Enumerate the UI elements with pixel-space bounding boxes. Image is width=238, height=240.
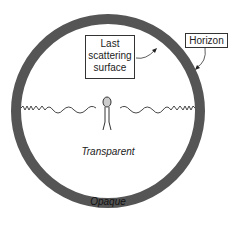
last-scattering-arrow	[136, 50, 155, 58]
horizon-label: Horizon	[185, 33, 228, 48]
label-line: scattering	[86, 50, 134, 62]
observer-figure	[103, 97, 111, 130]
opaque-label: Opaque	[88, 196, 128, 208]
photon-wave-left	[21, 106, 96, 113]
photon-wave-right	[120, 106, 195, 113]
label-line: surface	[86, 62, 134, 74]
label-line: Last	[86, 38, 134, 50]
transparent-label: Transparent	[78, 146, 138, 158]
last-scattering-label: Last scattering surface	[85, 35, 135, 79]
horizon-arrow	[196, 48, 205, 68]
